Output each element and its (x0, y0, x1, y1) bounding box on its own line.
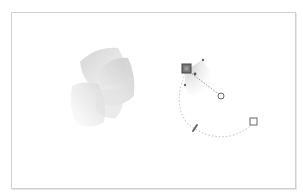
canvas-artwork-layer (0, 0, 303, 194)
corner-point-icon[interactable] (202, 59, 204, 61)
corner-point-icon[interactable] (184, 84, 186, 86)
gradient-end-handle-icon[interactable] (218, 93, 224, 99)
handle-inner (185, 67, 189, 71)
radius-handle-icon[interactable] (250, 118, 257, 125)
petal-shape-icon[interactable] (71, 48, 135, 127)
center-point-icon[interactable] (194, 73, 197, 76)
